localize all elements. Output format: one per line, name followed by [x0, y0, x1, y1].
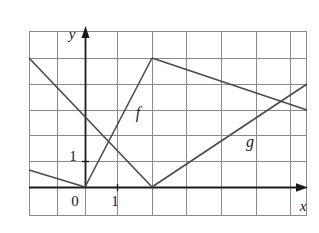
curve-f-ascending-segment: [85, 58, 152, 187]
curve-f-label: f: [136, 104, 143, 122]
y-axis: [82, 26, 90, 188]
curve-f: [29, 58, 307, 187]
curve-g-label: g: [246, 133, 254, 151]
curve-f-descending-segment: [29, 58, 152, 187]
origin-label: 0: [71, 193, 79, 209]
graph-figure: y x 1 0 1 f g: [0, 0, 319, 233]
x-tick-label-1: 1: [111, 193, 119, 209]
x-axis-label: x: [299, 198, 307, 214]
coordinate-plane: y x 1 0 1 f g: [0, 0, 319, 233]
y-tick-label-1: 1: [69, 148, 77, 164]
y-axis-label: y: [67, 26, 76, 42]
x-axis: [29, 183, 308, 192]
